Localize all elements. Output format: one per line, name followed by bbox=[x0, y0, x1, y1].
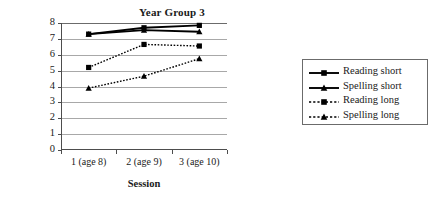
x-axis-tick-mark bbox=[116, 150, 117, 154]
series-marker bbox=[197, 43, 202, 48]
legend-label: Reading long bbox=[343, 95, 399, 106]
chart-figure: Year Group 3 Mean scores 012345678 1 (ag… bbox=[0, 0, 434, 197]
legend-swatch-triangle-icon bbox=[308, 109, 340, 121]
legend-label: Spelling short bbox=[343, 81, 402, 92]
x-axis-tick-mark bbox=[61, 150, 62, 154]
legend-item-spelling-long[interactable]: Spelling long bbox=[308, 108, 422, 123]
legend-label: Reading short bbox=[343, 66, 402, 77]
legend-swatch-square-icon bbox=[308, 65, 340, 77]
series-marker bbox=[197, 23, 202, 28]
series-marker bbox=[86, 85, 92, 91]
x-axis-tick-label: 3 (age 10) bbox=[164, 156, 234, 167]
legend-swatch-square-icon bbox=[308, 94, 340, 106]
legend-item-reading-long[interactable]: Reading long bbox=[308, 93, 422, 108]
x-axis-tick-mark bbox=[172, 150, 173, 154]
x-axis-tick-mark bbox=[227, 150, 228, 154]
legend-swatch-triangle-icon bbox=[308, 80, 340, 92]
legend-item-reading-short[interactable]: Reading short bbox=[308, 64, 422, 79]
chart-legend: Reading shortSpelling shortReading longS… bbox=[302, 59, 428, 125]
series-marker bbox=[141, 42, 146, 47]
legend-item-spelling-short[interactable]: Spelling short bbox=[308, 79, 422, 94]
x-axis-title: Session bbox=[61, 178, 227, 189]
series-marker bbox=[196, 56, 202, 62]
legend-label: Spelling long bbox=[343, 110, 399, 121]
series-marker bbox=[86, 65, 91, 70]
